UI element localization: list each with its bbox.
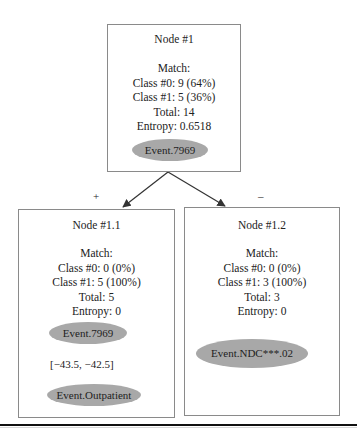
branch-sign-negative: – [258,190,264,202]
node-root[interactable]: Node #1 Match: Class #0: 9 (64%) Class #… [107,24,241,172]
match-label: Match: [19,246,174,261]
edge-root-to-left [123,172,168,207]
node-stats: Match: Class #0: 0 (0%) Class #1: 5 (100… [19,246,174,319]
class1-count: Class #1: 5 (100%) [19,275,174,290]
event-ellipse[interactable]: Event.NDC***.02 [196,339,308,368]
class1-count: Class #1: 3 (100%) [185,275,339,290]
bottom-rule-shadow [0,427,357,428]
node-title: Node #1 [108,33,240,45]
class0-count: Class #0: 9 (64%) [108,76,240,91]
node-right-child[interactable]: Node #1.2 Match: Class #0: 0 (0%) Class … [184,207,340,416]
event-ellipse[interactable]: Event.7969 [132,139,208,161]
node-title: Node #1.2 [185,219,339,231]
total-count: Total: 3 [185,290,339,305]
node-left-child[interactable]: Node #1.1 Match: Class #0: 0 (0%) Class … [18,209,175,418]
class0-count: Class #0: 0 (0%) [19,261,174,276]
entropy-value: Entropy: 0.6518 [108,119,240,134]
event-ellipse-target[interactable]: Event.Outpatient [47,384,141,406]
total-count: Total: 14 [108,105,240,120]
node-title: Node #1.1 [19,219,174,231]
match-label: Match: [108,61,240,76]
class0-count: Class #0: 0 (0%) [185,261,339,276]
total-count: Total: 5 [19,290,174,305]
class1-count: Class #1: 5 (36%) [108,90,240,105]
branch-sign-positive: + [93,190,99,202]
node-stats: Match: Class #0: 0 (0%) Class #1: 3 (100… [185,246,339,319]
entropy-value: Entropy: 0 [185,304,339,319]
match-label: Match: [185,246,339,261]
event-ellipse-source[interactable]: Event.7969 [49,322,127,344]
edge-root-to-right [168,172,225,206]
bottom-rule [0,424,357,426]
interval-label: [−43.5, −42.5] [50,358,114,370]
node-stats: Match: Class #0: 9 (64%) Class #1: 5 (36… [108,61,240,134]
entropy-value: Entropy: 0 [19,304,174,319]
